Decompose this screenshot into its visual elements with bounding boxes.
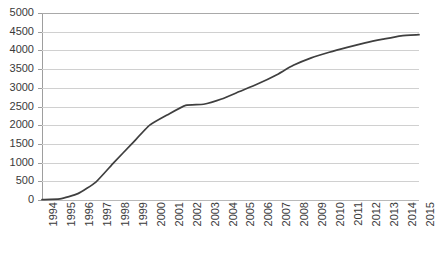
x-axis-tick-label-2000: 2000 [156,202,167,226]
gridline-500 [42,181,419,182]
y-axis-tick-label-5000: 5000 [10,7,34,18]
y-tick-2000 [38,125,42,126]
gridline-4500 [42,32,419,33]
y-axis-tick-label-1500: 1500 [10,138,34,149]
x-axis-tick-label-2001: 2001 [174,202,185,226]
plot-area [42,13,419,200]
x-axis-tick-label-2002: 2002 [192,202,203,226]
data-line [42,35,419,200]
y-axis-tick-label-3000: 3000 [10,82,34,93]
gridline-3000 [42,88,419,89]
gridline-2500 [42,107,419,108]
x-axis-tick-label-1998: 1998 [120,202,131,226]
y-tick-1500 [38,144,42,145]
x-axis-tick-label-1996: 1996 [84,202,95,226]
y-axis-tick-label-2500: 2500 [10,101,34,112]
x-axis-tick-label-2007: 2007 [281,202,292,226]
y-axis-tick-label-3500: 3500 [10,63,34,74]
gridline-0 [42,200,419,201]
y-axis-tick-label-2000: 2000 [10,119,34,130]
x-axis-tick-label-2013: 2013 [389,202,400,226]
gridline-2000 [42,125,419,126]
y-tick-1000 [38,163,42,164]
gridline-5000 [42,13,419,14]
series-line-cumulative-total [42,13,419,200]
y-axis-tick-label-4000: 4000 [10,44,34,55]
y-axis-tick-label-1000: 1000 [10,157,34,168]
gridline-1000 [42,163,419,164]
y-tick-4500 [38,32,42,33]
y-axis-tick-label-0: 0 [28,194,34,205]
y-axis-line [42,13,43,200]
x-axis-tick-label-1995: 1995 [66,202,77,226]
gridline-3500 [42,69,419,70]
x-axis-tick-label-2003: 2003 [210,202,221,226]
x-axis-tick-label-2015: 2015 [425,202,436,226]
y-axis-tick-label-4500: 4500 [10,26,34,37]
y-tick-3500 [38,69,42,70]
y-tick-0 [38,200,42,201]
x-axis-tick-label-2006: 2006 [263,202,274,226]
x-axis-tick-label-1994: 1994 [48,202,59,226]
x-axis-tick-label-2014: 2014 [407,202,418,226]
x-axis-labels: 1994199519961997199819992000200120022003… [42,202,419,263]
gridline-1500 [42,144,419,145]
x-axis-tick-label-2004: 2004 [228,202,239,226]
x-axis-tick-label-2011: 2011 [353,202,364,226]
x-axis-tick-label-2012: 2012 [371,202,382,226]
x-axis-tick-label-1999: 1999 [138,202,149,226]
y-tick-5000 [38,13,42,14]
x-axis-tick-label-2010: 2010 [335,202,346,226]
x-axis-tick-label-1997: 1997 [102,202,113,226]
y-tick-4000 [38,50,42,51]
y-axis-tick-label-500: 500 [16,175,34,186]
x-axis-tick-label-2009: 2009 [317,202,328,226]
y-tick-500 [38,181,42,182]
y-tick-2500 [38,107,42,108]
x-axis-tick-label-2008: 2008 [299,202,310,226]
x-axis-tick-label-2005: 2005 [245,202,256,226]
gridline-4000 [42,50,419,51]
y-tick-3000 [38,88,42,89]
y-axis-labels: 0500100015002000250030003500400045005000 [0,0,38,263]
